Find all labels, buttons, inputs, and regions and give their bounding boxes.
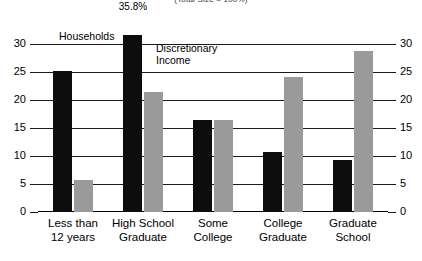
- y-axis-label-left-30: 30: [14, 38, 26, 49]
- y-axis-label-left-5: 5: [20, 178, 26, 189]
- bar-discretionary: [74, 180, 93, 212]
- tick-left-25: [30, 72, 38, 73]
- series-annotation-households: Households: [59, 31, 114, 43]
- bar-value-label: 35.8%: [103, 1, 163, 12]
- tick-left-10: [30, 156, 38, 157]
- bar-group: [193, 44, 233, 212]
- y-axis-label-left-10: 10: [14, 150, 26, 161]
- y-axis-label-right-25: 25: [400, 66, 412, 77]
- bar-group: [263, 44, 303, 212]
- bar-discretionary: [284, 77, 303, 212]
- tick-right-25: [388, 72, 396, 73]
- category-axis: Less than 12 yearsHigh School GraduateSo…: [38, 216, 388, 258]
- tick-left-5: [30, 184, 38, 185]
- category-label: Graduate School: [310, 216, 396, 244]
- tick-right-30: [388, 44, 396, 45]
- y-axis-label-left-25: 25: [14, 66, 26, 77]
- bar-group: [53, 44, 93, 212]
- bar-group: [333, 44, 373, 212]
- axis-break-mark: [121, 14, 144, 27]
- y-axis-label-right-15: 15: [400, 122, 412, 133]
- tick-left-20: [30, 100, 38, 101]
- bar-discretionary: [214, 120, 233, 212]
- tick-right-10: [388, 156, 396, 157]
- y-axis-label-left-15: 15: [14, 122, 26, 133]
- tick-left-30: [30, 44, 38, 45]
- chart-super-title: (Total Size = 100%): [0, 0, 422, 4]
- bar-households: [263, 152, 282, 212]
- y-axis-label-right-20: 20: [400, 94, 412, 105]
- series-annotation-discretionary: Discretionary Income: [156, 43, 217, 66]
- y-axis-label-left-20: 20: [14, 94, 26, 105]
- chart-container: (Total Size = 100%) 00551010151520202525…: [0, 0, 422, 261]
- tick-left-15: [30, 128, 38, 129]
- y-axis-label-left-0: 0: [20, 206, 26, 217]
- bar-discretionary: [354, 51, 373, 212]
- tick-right-0: [388, 212, 396, 213]
- tick-right-5: [388, 184, 396, 185]
- bar-discretionary: [144, 92, 163, 212]
- y-axis-label-right-5: 5: [400, 178, 406, 189]
- y-axis-label-right-10: 10: [400, 150, 412, 161]
- bar-households: [123, 35, 142, 212]
- bar-households: [53, 71, 72, 212]
- tick-right-15: [388, 128, 396, 129]
- y-axis-label-right-30: 30: [400, 38, 412, 49]
- tick-left-0: [30, 212, 38, 213]
- bar-group: 35.8%: [123, 44, 163, 212]
- tick-right-20: [388, 100, 396, 101]
- y-axis-label-right-0: 0: [400, 206, 406, 217]
- plot-area: 00551010151520202525303035.8%: [38, 44, 388, 212]
- bar-households: [333, 160, 352, 212]
- bar-households: [193, 120, 212, 212]
